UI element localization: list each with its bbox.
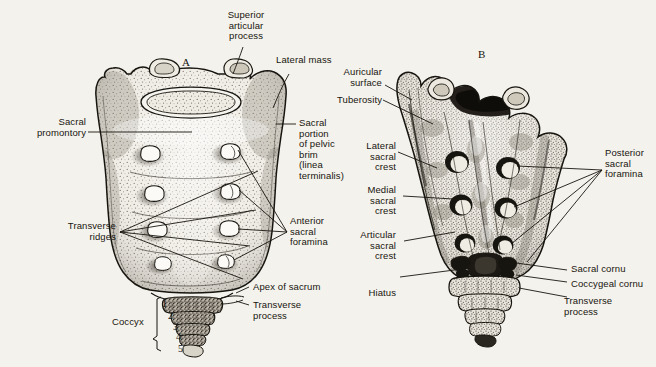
label-hiatus: Hiatus — [350, 288, 396, 299]
label-medial-sacral-crest: Medial sacral crest — [352, 185, 396, 217]
coccyx-segment-number-4: 4 — [176, 331, 181, 342]
label-anterior-sacral-foramina: Anterior sacral foramina — [290, 216, 328, 248]
label-apex-of-sacrum: Apex of sacrum — [253, 282, 320, 293]
coccyx-segment-number-2: 2 — [168, 310, 173, 321]
label-lateral-mass: Lateral mass — [276, 55, 332, 66]
label-tuberosity: Tuberosity — [316, 95, 382, 106]
label-auricular-surface: Auricular surface — [310, 67, 382, 88]
coccyx-segment-number-5: 5 — [178, 343, 183, 354]
label-articular-sacral-crest: Articular sacral crest — [344, 230, 396, 262]
label-sacral-cornu: Sacral cornu — [571, 264, 626, 275]
sacral-hiatus-cornua — [451, 253, 517, 279]
label-coccygeal-cornu: Coccygeal cornu — [571, 279, 643, 290]
label-transverse-process-a: Transverse process — [253, 300, 301, 321]
label-transverse-process-b: Transverse process — [564, 296, 612, 317]
label-lateral-sacral-crest: Lateral sacral crest — [352, 141, 396, 173]
label-posterior-sacral-foramina: Posterior sacral foramina — [605, 148, 644, 180]
coccyx-segment-number-1: 1 — [162, 298, 167, 309]
label-sacral-portion-pelvic-brim: Sacral portion of pelvic brim (linea ter… — [299, 118, 344, 182]
figure-letter-a: A — [182, 56, 190, 68]
label-sacral-promontory: Sacral promontory — [8, 117, 86, 138]
label-coccyx: Coccyx — [112, 317, 144, 328]
label-transverse-ridges: Transverse ridges — [40, 221, 116, 242]
label-superior-articular-process: Superior articular process — [213, 10, 279, 42]
figure-letter-b: B — [478, 48, 485, 60]
